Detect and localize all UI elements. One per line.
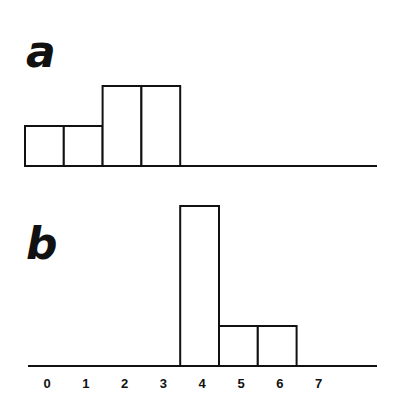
bar-3	[141, 86, 180, 166]
x-tick-label: 1	[82, 376, 89, 391]
x-tick-label: 0	[43, 376, 50, 391]
bar-0	[25, 126, 64, 166]
x-tick-label: 7	[315, 376, 322, 391]
x-tick-label: 5	[237, 376, 244, 391]
bar-6	[258, 326, 297, 366]
bar-5	[219, 326, 258, 366]
bar-2	[103, 86, 142, 166]
x-tick-label: 3	[160, 376, 167, 391]
bar-4	[180, 206, 219, 366]
bar-1	[64, 126, 103, 166]
x-tick-label: 6	[276, 376, 283, 391]
x-tick-label: 4	[199, 376, 206, 391]
histogram-figure	[0, 0, 399, 411]
x-tick-label: 2	[121, 376, 128, 391]
panel-b-bars	[180, 206, 296, 366]
panel-a-bars	[25, 86, 180, 166]
